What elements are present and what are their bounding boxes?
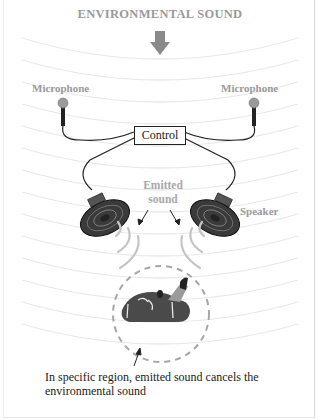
pointer-arrow	[134, 348, 141, 366]
caption: In specific region, emitted sound cancel…	[45, 370, 305, 398]
emitted-wave-arcs	[116, 222, 204, 268]
diagram-title: ENVIRONMENTAL SOUND	[0, 7, 320, 22]
microphone-right-icon	[249, 98, 259, 126]
microphone-left-icon	[58, 98, 68, 126]
microphone-right-label: Microphone	[221, 82, 278, 94]
listener-head-icon	[122, 278, 190, 323]
emitted-sound-label: Emitted sound	[138, 178, 188, 206]
control-box: Control	[134, 126, 186, 145]
down-arrow-icon	[150, 31, 170, 55]
microphone-left-label: Microphone	[32, 82, 89, 94]
speaker-left-icon	[71, 185, 135, 243]
speaker-label: Speaker	[240, 205, 279, 217]
